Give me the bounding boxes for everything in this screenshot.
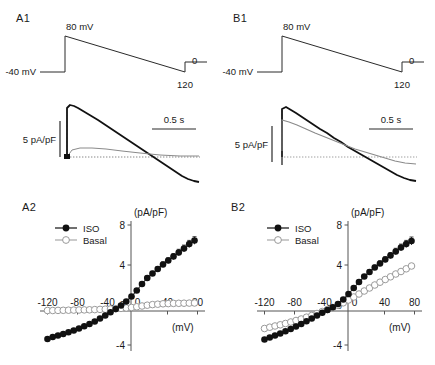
voltage-ramp-path-b1: [257, 36, 424, 72]
y-tick-label: 8: [336, 220, 342, 231]
data-point-basal: [408, 263, 415, 270]
peak-potential-label-a1: 80 mV: [66, 21, 94, 32]
x-tick-label: -120: [37, 297, 57, 308]
data-point-iso: [123, 298, 130, 305]
data-point-iso: [382, 256, 389, 263]
panel-b2: B2 -120-80-4004080-4048 (pA/pF) (mV) ISO…: [217, 195, 435, 365]
data-point-iso: [371, 264, 378, 271]
basal-current-path-a1: [67, 148, 199, 157]
data-point-iso: [361, 273, 368, 280]
panel-letter-b1: B1: [233, 12, 247, 24]
x-tick-label: -120: [254, 297, 274, 308]
y-axis-title-b2: (pA/pF): [351, 207, 384, 218]
voltage-ramp-path-a1: [40, 36, 207, 72]
holding-potential-label-a1: -40 mV: [5, 66, 36, 77]
ramp-end-label-a1: 120: [177, 79, 193, 90]
protocol-trace-b1: -40 mV 80 mV 0 120: [217, 0, 435, 95]
data-point-iso: [408, 238, 415, 245]
x-tick-label: 40: [379, 297, 391, 308]
y-tick-label: 4: [336, 260, 342, 271]
panel-letter-a2: A2: [22, 201, 36, 213]
end-potential-label-a1: 0: [192, 55, 197, 66]
data-point-basal: [191, 300, 198, 307]
x-axis-title-b2: (mV): [389, 322, 411, 333]
data-point-iso: [139, 281, 146, 288]
y-scale-label-b1: 5 pA/pF: [235, 139, 268, 150]
panel-a1-current: 5 pA/pF 0.5 s: [0, 95, 217, 195]
data-point-iso: [340, 296, 347, 303]
legend-iso-marker-a2: [63, 225, 70, 232]
figure-root: A1 -40 mV 80 mV 0 120 B1 -40 mV 80 mV 0 …: [0, 0, 435, 365]
panel-b1: B1 -40 mV 80 mV 0 120: [217, 0, 435, 95]
x-tick-label: -80: [287, 297, 302, 308]
iv-plot-a2: -120-80-4004030-4048 (pA/pF) (mV) ISO Ba…: [0, 195, 217, 365]
ramp-end-label-b1: 120: [394, 79, 410, 90]
protocol-trace-a1: -40 mV 80 mV 0 120: [0, 0, 217, 95]
legend-b2: ISO Basal: [267, 223, 319, 246]
data-point-iso: [175, 249, 182, 256]
panel-letter-b2: B2: [231, 201, 245, 213]
legend-a2: ISO Basal: [55, 223, 107, 246]
data-point-iso: [170, 253, 177, 260]
legend-iso-marker-b2: [275, 225, 282, 232]
panel-letter-a1: A1: [16, 12, 30, 24]
panel-a1: A1 -40 mV 80 mV 0 120: [0, 0, 217, 95]
data-point-iso: [128, 293, 135, 300]
legend-iso-label-a2: ISO: [83, 223, 99, 234]
x-axis-title-a2: (mV): [172, 322, 194, 333]
basal-current-path-b1: [282, 120, 416, 164]
data-point-iso: [154, 266, 161, 273]
data-point-iso: [165, 257, 172, 264]
data-point-iso: [144, 275, 151, 282]
y-tick-label: 4: [119, 260, 125, 271]
panel-a2: A2 -120-80-4004030-4048 (pA/pF) (mV) ISO…: [0, 195, 217, 365]
legend-basal-label-b2: Basal: [295, 235, 319, 246]
y-tick-label: -4: [333, 340, 342, 351]
legend-basal-label-a2: Basal: [83, 235, 107, 246]
data-point-iso: [387, 252, 394, 259]
legend-basal-marker-b2: [275, 237, 282, 244]
data-point-iso: [191, 237, 198, 244]
iv-plot-b2: -120-80-4004080-4048 (pA/pF) (mV) ISO Ba…: [217, 195, 435, 365]
data-point-iso: [133, 287, 140, 294]
y-tick-label: 8: [119, 220, 125, 231]
data-point-iso: [366, 269, 373, 276]
holding-potential-label-b1: -40 mV: [222, 66, 253, 77]
y-axis-title-a2: (pA/pF): [134, 207, 167, 218]
peak-potential-label-b1: 80 mV: [283, 21, 311, 32]
data-point-iso: [356, 279, 363, 286]
current-trace-b1: 5 pA/pF 0.5 s: [217, 95, 435, 195]
x-tick-label: 80: [409, 297, 421, 308]
x-scale-label-a1: 0.5 s: [164, 114, 185, 125]
legend-basal-marker-a2: [63, 237, 70, 244]
data-point-iso: [377, 260, 384, 267]
current-trace-a1: 5 pA/pF 0.5 s: [0, 95, 217, 195]
panel-b1-current: 5 pA/pF 0.5 s: [217, 95, 435, 195]
y-tick-label: -4: [116, 340, 125, 351]
data-point-iso: [345, 291, 352, 298]
data-point-iso: [392, 248, 399, 255]
x-scale-label-b1: 0.5 s: [381, 114, 402, 125]
data-point-iso: [335, 301, 342, 308]
data-point-iso: [350, 285, 357, 292]
end-potential-label-b1: 0: [409, 55, 414, 66]
trace-origin-marker-a1: [64, 154, 70, 159]
data-point-iso: [118, 302, 125, 309]
data-point-iso: [160, 261, 167, 268]
data-point-iso: [149, 270, 156, 277]
y-scale-label-a1: 5 pA/pF: [23, 134, 56, 145]
data-point-iso: [181, 245, 188, 252]
legend-iso-label-b2: ISO: [295, 223, 311, 234]
